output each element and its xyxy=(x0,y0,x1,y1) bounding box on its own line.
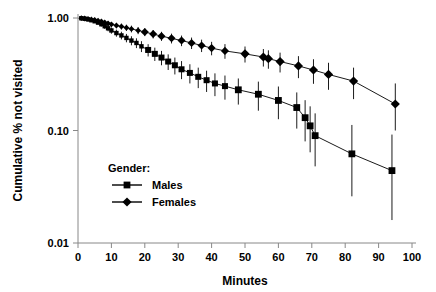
x-tick-label: 10 xyxy=(105,251,117,263)
x-tick-label: 50 xyxy=(239,251,251,263)
data-point-marker xyxy=(119,33,123,37)
x-tick-label: 90 xyxy=(372,251,384,263)
y-tick-label: 1.00 xyxy=(48,12,69,24)
data-point-marker xyxy=(293,104,300,111)
legend-label: Females xyxy=(152,196,196,208)
data-point-marker xyxy=(124,36,128,40)
x-tick-label: 70 xyxy=(306,251,318,263)
y-tick-label: 0.01 xyxy=(48,237,69,249)
x-tick-label: 20 xyxy=(139,251,151,263)
data-point-marker xyxy=(389,167,396,174)
data-point-marker xyxy=(312,132,319,139)
x-tick-label: 100 xyxy=(403,251,421,263)
x-axis-title: Minutes xyxy=(222,274,268,288)
data-point-marker xyxy=(307,122,314,129)
data-point-marker xyxy=(222,83,228,89)
data-point-marker xyxy=(165,59,171,65)
data-point-marker xyxy=(139,44,143,48)
data-point-marker xyxy=(179,66,185,72)
data-point-marker xyxy=(275,97,282,104)
data-point-marker xyxy=(152,51,158,57)
x-tick-label: 80 xyxy=(339,251,351,263)
data-point-marker xyxy=(159,55,165,61)
data-point-marker xyxy=(348,150,355,157)
legend-label: Males xyxy=(152,179,183,191)
data-point-marker xyxy=(255,91,262,98)
y-axis-title: Cumulative % not visited xyxy=(11,59,25,201)
x-tick-label: 0 xyxy=(75,251,81,263)
legend-marker-square-icon xyxy=(124,182,131,189)
data-point-marker xyxy=(195,74,201,80)
legend-title: Gender: xyxy=(108,162,150,174)
x-tick-label: 60 xyxy=(272,251,284,263)
data-point-marker xyxy=(235,86,242,93)
y-tick-label: 0.10 xyxy=(48,125,69,137)
data-point-marker xyxy=(212,80,218,86)
figure-panel: 0.010.101.000102030405060708090100 Gende… xyxy=(0,0,436,292)
data-point-marker xyxy=(145,47,151,53)
data-point-marker xyxy=(134,41,138,45)
data-point-marker xyxy=(129,38,133,42)
data-point-marker xyxy=(109,28,113,32)
data-point-marker xyxy=(172,62,178,68)
x-tick-label: 30 xyxy=(172,251,184,263)
survival-curve-chart: 0.010.101.000102030405060708090100 Gende… xyxy=(0,0,436,292)
data-point-marker xyxy=(302,114,309,121)
data-point-marker xyxy=(114,31,118,35)
data-point-marker xyxy=(187,70,193,76)
x-tick-label: 40 xyxy=(205,251,217,263)
data-point-marker xyxy=(204,77,210,83)
